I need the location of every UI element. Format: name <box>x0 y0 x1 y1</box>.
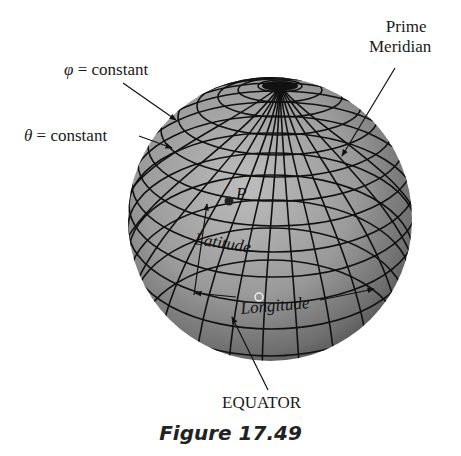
phi-text: = constant <box>73 60 148 79</box>
theta-constant-label: θ = constant <box>24 127 107 144</box>
prime-meridian-label: Prime Meridian <box>369 17 431 58</box>
equator-label: EQUATOR <box>222 394 301 411</box>
point-p <box>225 197 234 206</box>
theta-text: = constant <box>32 126 107 145</box>
point-p-label: P <box>235 184 246 203</box>
phi-symbol: φ <box>64 60 73 79</box>
prime-meridian-line1: Prime <box>369 17 431 37</box>
prime-meridian-line2: Meridian <box>369 37 431 57</box>
phi-leader <box>123 83 176 120</box>
figure-caption: Figure 17.49 <box>0 421 461 445</box>
phi-constant-label: φ = constant <box>64 61 148 78</box>
